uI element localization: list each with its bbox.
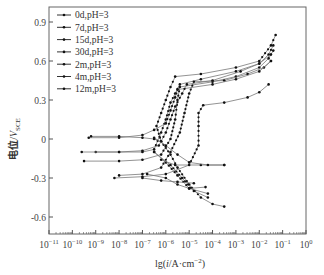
data-point — [270, 53, 273, 56]
legend-marker — [63, 51, 66, 54]
data-point — [197, 135, 199, 137]
data-point — [162, 150, 164, 152]
data-point — [196, 148, 198, 150]
data-point — [118, 151, 121, 154]
data-point — [169, 138, 172, 141]
data-point — [193, 182, 196, 185]
data-point — [177, 135, 179, 137]
data-point — [193, 190, 196, 193]
curve-line — [89, 61, 271, 138]
data-point — [175, 109, 177, 111]
data-point — [175, 139, 177, 141]
data-point — [175, 170, 177, 172]
data-point — [197, 112, 200, 115]
data-point — [202, 104, 205, 107]
legend-label: 2m,pH=3 — [75, 60, 111, 70]
data-point — [165, 99, 168, 102]
data-point — [118, 160, 121, 163]
data-point — [160, 140, 162, 142]
data-point — [184, 180, 186, 182]
data-point — [197, 144, 200, 147]
data-point — [171, 114, 173, 116]
data-point — [160, 112, 163, 115]
data-point — [200, 196, 203, 199]
data-point — [188, 161, 191, 164]
data-point — [87, 136, 90, 139]
data-point — [141, 177, 144, 180]
series-3 — [118, 60, 272, 190]
data-point — [118, 136, 121, 139]
data-point — [258, 66, 261, 69]
data-point — [186, 83, 189, 86]
series-2 — [83, 49, 275, 166]
y-tick-label: 0.9 — [34, 18, 46, 28]
data-point — [258, 70, 261, 73]
data-point — [157, 121, 159, 123]
x-tick-label: 10−5 — [181, 238, 197, 250]
legend-marker — [63, 14, 66, 17]
curve-line — [114, 84, 268, 178]
data-point — [146, 173, 149, 176]
data-point — [160, 153, 163, 156]
data-point — [173, 122, 175, 124]
data-point — [179, 131, 182, 134]
data-point — [160, 166, 163, 169]
data-point — [186, 100, 188, 102]
data-point — [272, 39, 274, 41]
y-axis-title: 电位/VSCE — [7, 118, 22, 160]
y-tick-label: 0.6 — [34, 57, 46, 67]
data-point — [176, 88, 179, 91]
data-point — [207, 196, 210, 199]
data-point — [169, 86, 172, 89]
legend-marker — [63, 26, 66, 29]
data-point — [197, 130, 199, 132]
y-tick-label: -0.3 — [31, 174, 46, 184]
data-point — [113, 177, 116, 180]
data-point — [171, 130, 173, 132]
data-point — [166, 95, 168, 97]
data-point — [172, 158, 174, 160]
data-point — [171, 105, 173, 107]
data-point — [223, 101, 226, 104]
x-tick-label: 10−8 — [111, 238, 127, 250]
data-point — [173, 143, 175, 145]
data-point — [190, 187, 192, 189]
data-point — [173, 101, 175, 103]
data-point — [141, 149, 144, 152]
data-point — [235, 66, 238, 69]
data-point — [188, 164, 191, 167]
x-axis: 10−1110−1010−910−810−710−610−510−410−310… — [39, 230, 312, 250]
legend-marker — [63, 88, 66, 91]
data-point — [163, 103, 165, 105]
data-point — [207, 192, 210, 195]
data-point — [172, 126, 174, 128]
data-point — [187, 183, 189, 185]
data-point — [174, 105, 177, 108]
data-point — [258, 60, 261, 63]
data-point — [80, 151, 83, 154]
data-point — [172, 167, 174, 169]
data-point — [141, 136, 144, 139]
data-point — [270, 49, 272, 51]
data-point — [155, 125, 158, 128]
data-point — [153, 136, 156, 139]
data-point — [158, 133, 160, 135]
data-point — [184, 108, 186, 110]
legend-label: 0d,pH=3 — [75, 10, 109, 20]
data-point — [167, 155, 169, 157]
data-point — [183, 88, 185, 90]
data-point — [166, 114, 168, 116]
data-point — [193, 81, 196, 84]
x-tick-label: 10−11 — [39, 238, 58, 250]
data-point — [258, 91, 261, 94]
data-point — [174, 164, 177, 167]
data-point — [172, 97, 174, 99]
data-point — [160, 131, 163, 134]
data-point — [153, 151, 156, 154]
legend-label: 7d,pH=3 — [75, 23, 109, 33]
x-tick-label: 10−7 — [134, 238, 151, 250]
data-point — [179, 83, 182, 86]
data-point — [272, 49, 275, 52]
x-tick-label: 10−3 — [228, 238, 244, 250]
data-point — [272, 44, 275, 47]
